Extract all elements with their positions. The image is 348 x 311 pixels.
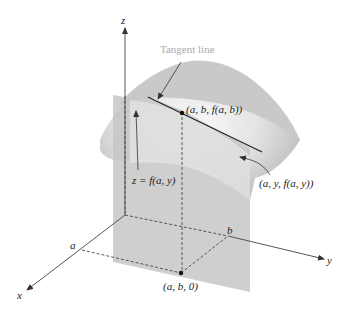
point-top [180,111,184,115]
x-axis [27,215,125,290]
point-top-label: (a, b, f(a, b)) [186,103,243,116]
x-tick-a: a [70,239,76,251]
x-axis-label: x [16,289,22,301]
partial-derivative-diagram: z x a y b Tangent line (a, b, f(a, b)) z… [0,0,348,311]
base-point-label: (a, b, 0) [163,280,198,293]
curve-equation-label: z = f(a, y) [131,174,176,187]
z-axis-label: z [120,14,126,26]
tangent-line-label: Tangent line [160,43,215,55]
y-tick-b: b [227,224,233,236]
point-base [179,271,183,275]
curve-point-label: (a, y, f(a, y)) [259,177,314,190]
y-axis-label: y [326,254,332,266]
